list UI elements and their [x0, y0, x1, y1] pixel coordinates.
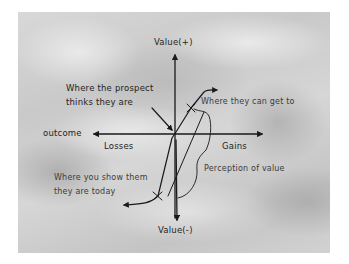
losses-label: Losses	[104, 141, 134, 152]
gains-label: Gains	[222, 141, 247, 152]
show-them-label-line1: Where you show them	[54, 172, 148, 183]
y-axis	[175, 55, 177, 220]
value-curve	[124, 196, 158, 205]
show-them-label-line2: they are today	[54, 186, 115, 197]
perception-bracket	[178, 109, 211, 198]
potential-cross-marker	[187, 104, 195, 112]
y-axis-bottom-label: Value(-)	[158, 225, 193, 236]
y-axis-top-label: Value(+)	[154, 37, 193, 48]
can-get-to-label: Where they can get to	[201, 96, 295, 107]
perception-of-value-label: Perception of value	[204, 163, 285, 174]
diagram-canvas: Value(+) Value(-) outcome Losses Gains W…	[0, 0, 349, 264]
prospect-thinks-label-line2: thinks they are	[66, 97, 133, 108]
x-axis-label: outcome	[43, 128, 82, 139]
today-cross-marker	[153, 192, 162, 200]
gap-line	[168, 112, 204, 196]
prospect-thinks-label-line1: Where the prospect	[66, 83, 153, 94]
prospect-pointer-arrow	[152, 108, 172, 130]
